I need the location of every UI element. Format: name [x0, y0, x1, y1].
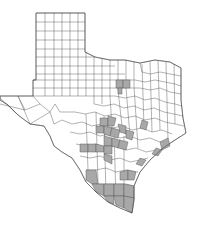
highlighted-county — [114, 184, 124, 196]
highlighted-county — [104, 136, 112, 146]
highlighted-county — [96, 126, 104, 133]
highlighted-county — [120, 170, 128, 180]
highlighted-county — [104, 184, 114, 196]
highlighted-county — [88, 144, 96, 152]
highlighted-county — [116, 80, 123, 88]
highlighted-county — [110, 128, 120, 138]
highlighted-county — [118, 88, 122, 94]
highlighted-county — [80, 144, 88, 152]
highlighted-county — [123, 80, 130, 88]
highlighted-county — [100, 118, 108, 126]
highlighted-county — [114, 196, 124, 208]
texas-county-map — [0, 0, 199, 226]
highlighted-county — [104, 146, 112, 154]
highlighted-county — [124, 184, 134, 198]
highlighted-county — [118, 140, 128, 150]
